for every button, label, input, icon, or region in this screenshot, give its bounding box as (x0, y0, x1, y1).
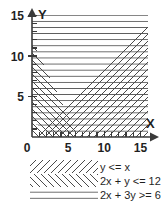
legend-label-y-le-x: y <= x (100, 161, 130, 173)
backward-diagonal-hatch-swatch (30, 174, 98, 187)
inequality-region-figure: 15 10 5 0 5 10 15 Y X y <= x 2x + y <= 1… (0, 0, 163, 217)
x-tick-label-15: 15 (134, 141, 148, 155)
legend-item-y-le-x: y <= x (30, 160, 130, 173)
x-axis-arrowhead (150, 132, 159, 141)
origin-label: 0 (24, 141, 31, 155)
x-tick-label-10: 10 (98, 141, 112, 155)
x-tick-label-5: 5 (65, 141, 72, 155)
legend-label-2x-3y-ge-6: 2x + 3y >= 6 (100, 189, 161, 201)
legend: y <= x 2x + y <= 12 2x + 3y >= 6 (30, 160, 161, 201)
legend-item-2x-y-le-12: 2x + y <= 12 (30, 174, 161, 187)
legend-label-2x-y-le-12: 2x + y <= 12 (100, 175, 161, 187)
y-tick-label-5: 5 (17, 90, 24, 104)
plot-regions (32, 15, 148, 137)
horizontal-line-hatch-swatch (30, 189, 98, 200)
y-tick-label-15: 15 (11, 9, 25, 23)
chart-svg: 15 10 5 0 5 10 15 Y X y <= x 2x + y <= 1… (0, 0, 163, 217)
y-axis-label: Y (38, 7, 47, 22)
x-axis-label: X (146, 116, 155, 131)
legend-item-2x-3y-ge-6: 2x + 3y >= 6 (30, 189, 161, 201)
forward-diagonal-hatch-swatch (30, 160, 98, 173)
y-tick-label-10: 10 (11, 50, 25, 64)
